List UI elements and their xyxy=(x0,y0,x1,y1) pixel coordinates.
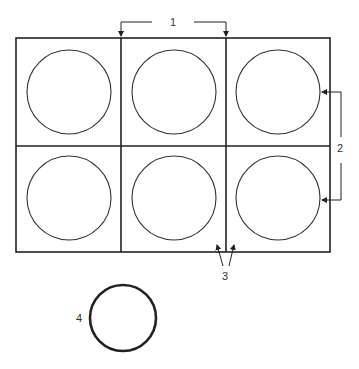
cell-circle xyxy=(27,50,111,134)
cell-circle xyxy=(132,50,216,134)
label-2: 2 xyxy=(337,142,343,154)
single-circle xyxy=(90,285,156,351)
label-1: 1 xyxy=(170,16,176,28)
grid xyxy=(16,38,330,252)
cell-circle xyxy=(27,156,111,240)
cell-circle xyxy=(236,156,320,240)
diagram-canvas: 1 2 3 4 xyxy=(0,0,359,369)
label-3: 3 xyxy=(222,270,228,282)
cell-circle xyxy=(132,156,216,240)
cell-circle xyxy=(236,50,320,134)
cell-circles xyxy=(27,50,320,240)
label-4: 4 xyxy=(76,312,82,324)
